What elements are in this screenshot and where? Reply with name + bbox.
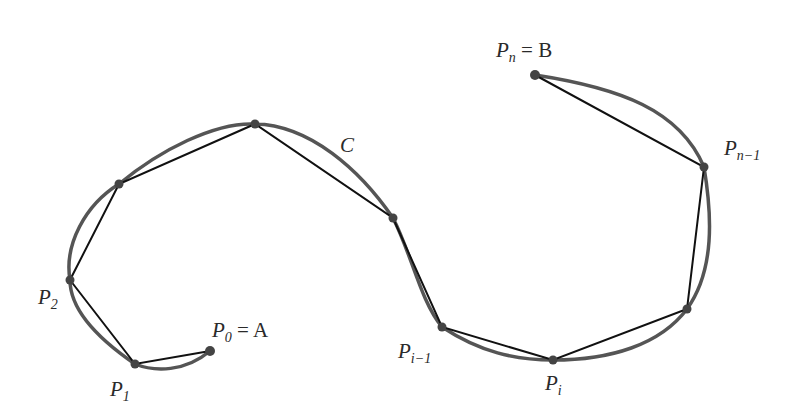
label-pn-minus-1: Pn−1 <box>723 136 760 163</box>
point-pn <box>530 70 540 80</box>
curve-diagram: P0 = A P1 P2 C Pi−1 Pi Pn−1 Pn = B <box>0 0 792 417</box>
vertex-points <box>66 70 709 369</box>
point-p3 <box>115 180 124 189</box>
point-p2 <box>66 276 75 285</box>
point-p4 <box>251 120 260 129</box>
label-p2: P2 <box>37 285 58 312</box>
point-pi <box>549 356 558 365</box>
diagram-canvas: P0 = A P1 P2 C Pi−1 Pi Pn−1 Pn = B <box>0 0 792 417</box>
label-p1: P1 <box>109 377 130 404</box>
point-pn-minus-2 <box>683 305 692 314</box>
label-p0: P0 = A <box>211 318 269 345</box>
polygonal-path <box>70 75 704 364</box>
label-pi: Pi <box>544 371 562 398</box>
point-p5 <box>389 214 398 223</box>
label-pn: Pn = B <box>495 38 552 65</box>
label-pi-minus-1: Pi−1 <box>397 339 431 366</box>
curve-c <box>69 75 710 369</box>
label-curve-c: C <box>340 133 355 157</box>
point-pi-minus-1 <box>438 323 447 332</box>
point-pn-minus-1 <box>700 163 709 172</box>
point-p0 <box>205 346 215 356</box>
point-p1 <box>131 360 140 369</box>
